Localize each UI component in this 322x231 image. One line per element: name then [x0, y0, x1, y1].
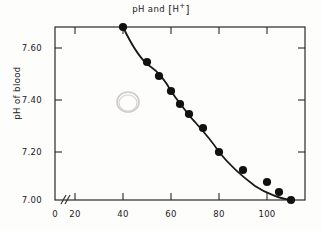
tick-marks: [55, 27, 305, 200]
data-point: [176, 100, 184, 108]
data-point: [215, 148, 223, 156]
data-series-ph-curve: [119, 23, 295, 204]
data-point: [185, 110, 193, 118]
axes-frame: [55, 27, 305, 200]
data-point: [167, 87, 175, 95]
data-point: [155, 72, 163, 80]
data-point: [287, 196, 295, 204]
data-point: [263, 178, 271, 186]
plot-area: [0, 0, 322, 231]
hand-drawn-circle-annotation: [117, 92, 139, 112]
data-point: [143, 58, 151, 66]
chart-figure: pH and [H+] pH of blood 7.00 7.20 7.40 7…: [0, 0, 322, 231]
data-point: [239, 166, 247, 174]
data-point: [119, 23, 127, 31]
data-point: [199, 124, 207, 132]
data-point: [275, 188, 283, 196]
